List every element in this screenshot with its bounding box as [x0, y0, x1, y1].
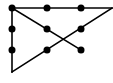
connecting-lines — [12, 8, 112, 72]
dot-3 — [78, 5, 85, 12]
dot-9 — [78, 47, 85, 54]
nine-dots-diagram — [0, 0, 113, 83]
dot-5 — [44, 26, 51, 33]
dot-7 — [9, 47, 16, 54]
dot-8 — [44, 47, 51, 54]
dot-4 — [9, 26, 16, 33]
dot-2 — [44, 5, 51, 12]
dot-grid — [9, 5, 85, 54]
dot-1 — [9, 5, 16, 12]
dot-6 — [78, 26, 85, 33]
